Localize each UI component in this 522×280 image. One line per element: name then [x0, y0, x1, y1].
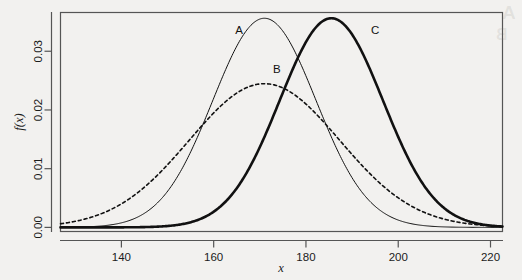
curve-group [61, 18, 503, 227]
y-tick-label: 0.01 [32, 157, 44, 179]
y-tick-label: 0.03 [32, 40, 44, 62]
density-plot: 140160180200220 0.000.010.020.03 ABC x f… [0, 0, 522, 280]
y-tick-label: 0.02 [32, 99, 44, 121]
x-tick-label: 220 [481, 251, 500, 263]
y-axis-label: f(x) [12, 113, 26, 130]
curve-c [61, 18, 503, 227]
curve-annotations: ABC [235, 24, 379, 75]
curve-label-b: B [273, 63, 281, 75]
x-axis-ticks: 140160180200220 [112, 241, 500, 264]
x-tick-label: 140 [112, 251, 131, 263]
y-tick-label: 0.00 [32, 216, 44, 238]
y-axis-ticks: 0.000.010.020.03 [32, 40, 52, 239]
plot-frame [61, 13, 503, 232]
x-tick-label: 180 [296, 251, 315, 263]
x-tick-label: 200 [389, 251, 408, 263]
curve-label-a: A [235, 24, 243, 36]
chart-figure: A B 140160180200220 0.000.010.020.03 ABC… [0, 0, 522, 280]
curve-b [61, 84, 503, 227]
curve-label-c: C [371, 24, 379, 36]
curve-a [61, 18, 503, 227]
x-axis-label: x [277, 261, 284, 275]
x-tick-label: 160 [204, 251, 223, 263]
